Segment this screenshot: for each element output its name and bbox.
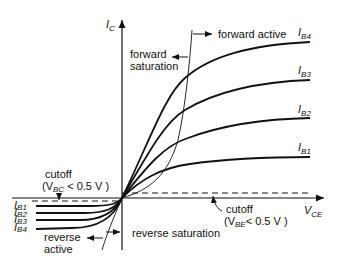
rcurve-ib1 <box>36 198 122 206</box>
x-axis-label: VCE <box>304 204 323 219</box>
reverse-active-label-1: reverse <box>44 231 81 243</box>
cutoff-be-label: cutoff <box>226 203 254 215</box>
reverse-saturation-label: reverse saturation <box>132 227 220 239</box>
label-ib1: IB1 <box>298 141 311 156</box>
reverse-curves <box>36 198 122 229</box>
forward-saturation-label-2: saturation <box>130 60 178 72</box>
cutoff-be-condition: (VBE< 0.5 V ) <box>224 215 288 229</box>
forward-active-label: forward active <box>218 28 286 40</box>
bjt-characteristics-diagram: IC VCE IB4 IB3 IB2 IB1 IB1 IB2 IB3 IB4 f… <box>0 0 337 265</box>
label-ib4: IB4 <box>298 26 311 41</box>
label-ib2: IB2 <box>298 103 311 118</box>
cutoff-bc-label: cutoff <box>45 168 73 180</box>
label-ib3: IB3 <box>298 64 311 79</box>
reverse-active-label-2: active <box>44 243 73 255</box>
cutoff-bc-condition: (VBC < 0.5 V ) <box>42 180 109 194</box>
curve-ib3 <box>122 80 310 198</box>
forward-saturation-label-1: forward <box>130 48 167 60</box>
y-axis-label: IC <box>106 18 115 33</box>
